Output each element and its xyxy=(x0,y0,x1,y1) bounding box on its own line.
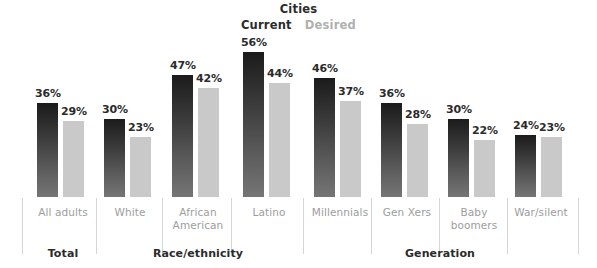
bar-group: 24%23% xyxy=(515,0,562,197)
bar-desired xyxy=(474,140,495,197)
bar-desired xyxy=(541,137,562,197)
bar-value-label-desired: 22% xyxy=(462,124,508,137)
bar-value-label-current: 36% xyxy=(25,87,71,100)
bar-value-label-desired: 29% xyxy=(51,105,97,118)
bar-group: 30%22% xyxy=(448,0,495,197)
bar-current xyxy=(515,135,536,197)
group-label: Generation xyxy=(330,247,550,260)
bar-group: 36%29% xyxy=(37,0,84,197)
bar-value-label-desired: 37% xyxy=(328,85,374,98)
bar-desired xyxy=(130,137,151,197)
bar-group: 36%28% xyxy=(381,0,428,197)
group-label: Race/ethnicity xyxy=(108,247,288,260)
bar-value-label-desired: 28% xyxy=(395,108,441,121)
bar-value-label-current: 30% xyxy=(92,103,138,116)
bar-desired xyxy=(407,124,428,197)
category-label: War/silent xyxy=(496,206,586,219)
bar-value-label-current: 56% xyxy=(231,36,277,49)
bar-desired xyxy=(340,101,361,197)
bar-current xyxy=(172,75,193,197)
bar-desired xyxy=(269,83,290,197)
bar-group: 30%23% xyxy=(104,0,151,197)
bar-value-label-current: 36% xyxy=(369,87,415,100)
plot-area: 36%29%30%23%47%42%56%44%46%37%36%28%30%2… xyxy=(0,0,597,197)
bar-value-label-desired: 23% xyxy=(529,121,575,134)
category-axis-area: All adultsWhiteAfricanAmericanLatinoMill… xyxy=(0,197,597,268)
cities-bar-chart: Cities CurrentDesired 36%29%30%23%47%42%… xyxy=(0,0,597,268)
bar-group: 47%42% xyxy=(172,0,219,197)
bar-value-label-desired: 42% xyxy=(186,72,232,85)
bar-desired xyxy=(198,88,219,197)
bar-desired xyxy=(63,121,84,197)
bar-group: 56%44% xyxy=(243,0,290,197)
bar-group: 46%37% xyxy=(314,0,361,197)
bar-value-label-current: 30% xyxy=(436,103,482,116)
bar-value-label-desired: 23% xyxy=(118,121,164,134)
bar-value-label-current: 47% xyxy=(160,59,206,72)
bar-value-label-desired: 44% xyxy=(257,67,303,80)
bar-value-label-current: 46% xyxy=(302,62,348,75)
